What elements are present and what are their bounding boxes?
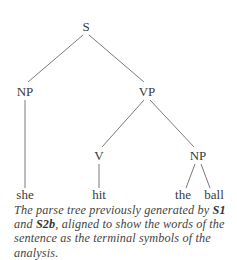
- node-s: S: [82, 19, 89, 34]
- terminal-she: she: [16, 187, 34, 202]
- node-np-subject: NP: [17, 84, 34, 99]
- edge-s-np: [28, 35, 83, 82]
- terminal-the: the: [175, 187, 191, 202]
- edge-vp-np: [150, 100, 194, 147]
- caption-text: and: [14, 217, 36, 231]
- edge-s-vp: [89, 35, 144, 82]
- terminal-ball: ball: [204, 187, 224, 202]
- terminal-hit: hit: [92, 187, 106, 202]
- figure-caption: The parse tree previously generated by S…: [14, 203, 236, 260]
- edge-vp-v: [102, 100, 144, 147]
- caption-ref-s1: S1: [213, 203, 226, 217]
- caption-text: The parse tree previously generated by: [14, 203, 213, 217]
- parse-tree: S NP VP V NP she hit the ball: [0, 0, 237, 205]
- node-v: V: [94, 148, 104, 163]
- edge-np-ball: [201, 164, 210, 188]
- edge-np-the: [186, 164, 195, 188]
- caption-ref-s2b: S2b: [36, 217, 55, 231]
- node-vp: VP: [139, 84, 156, 99]
- node-np-object: NP: [190, 148, 207, 163]
